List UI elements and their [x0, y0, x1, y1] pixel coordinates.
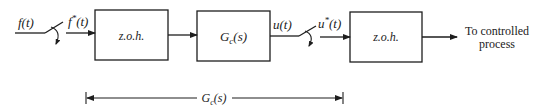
controller-block-label: Gc(s) [220, 29, 247, 46]
sampled-data-block-diagram: f(t) f*(t) z.o.h. Gc(s) u(t) u*(t) z.o.h… [0, 0, 539, 112]
zoh-block-1-label: z.o.h. [118, 29, 145, 43]
output-text-line-2: process [479, 37, 515, 51]
sampler-switch-1-icon [45, 22, 63, 44]
zoh-block-2-label: z.o.h. [372, 30, 399, 44]
sampler-switch-2-icon [299, 26, 316, 46]
controller-output-label: u(t) [273, 17, 292, 32]
output-text-line-1: To controlled [465, 24, 529, 38]
input-signal-label: f(t) [18, 15, 34, 30]
sampled-output-label: u*(t) [318, 15, 341, 31]
sampled-input-label: f*(t) [68, 13, 88, 29]
span-label: Gc(s) [202, 91, 227, 107]
